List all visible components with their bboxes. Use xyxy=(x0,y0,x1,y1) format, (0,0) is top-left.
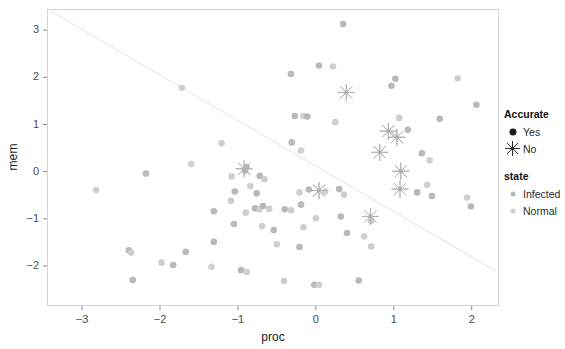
legend-label: Normal xyxy=(523,205,557,217)
legend-label: Infected xyxy=(523,188,560,200)
legend-label: No xyxy=(523,143,536,155)
legend-item-infected[interactable]: Infected xyxy=(504,185,565,202)
x-tick-label: −2 xyxy=(135,313,185,325)
legend-dot xyxy=(510,191,515,196)
x-tick-label: 2 xyxy=(447,313,497,325)
legend-item-no[interactable]: No xyxy=(504,140,565,157)
legend-item-yes[interactable]: Yes xyxy=(504,123,565,140)
legend-title: state xyxy=(504,170,565,182)
x-tick-label: 0 xyxy=(291,313,341,325)
x-axis-title: proc xyxy=(0,330,546,344)
star-icon xyxy=(504,140,521,157)
scatter-plot-figure: −3−2−1012−2−10123 proc mem AccurateYesNo… xyxy=(0,0,565,349)
x-tick-label: −3 xyxy=(57,313,107,325)
legend-group-accurate: AccurateYesNo xyxy=(504,108,565,157)
y-tick-label: −2 xyxy=(0,259,39,271)
legend-label: Yes xyxy=(523,126,540,138)
legend-item-normal[interactable]: Normal xyxy=(504,202,565,219)
legend-title: Accurate xyxy=(504,108,565,120)
normal-dot-icon xyxy=(504,202,521,219)
x-tick-label: 1 xyxy=(369,313,419,325)
legend: AccurateYesNostateInfectedNormal xyxy=(504,108,565,219)
y-tick-label: 2 xyxy=(0,70,39,82)
legend-dot xyxy=(509,128,516,135)
legend-dot xyxy=(510,208,515,213)
y-tick-label: −1 xyxy=(0,212,39,224)
x-tick-label: −1 xyxy=(213,313,263,325)
y-tick-label: 3 xyxy=(0,23,39,35)
infected-dot-icon xyxy=(504,185,521,202)
legend-group-state: stateInfectedNormal xyxy=(504,170,565,219)
y-axis-title: mem xyxy=(6,127,20,187)
plot-panel xyxy=(47,9,499,306)
filled-dot-icon xyxy=(504,123,521,140)
